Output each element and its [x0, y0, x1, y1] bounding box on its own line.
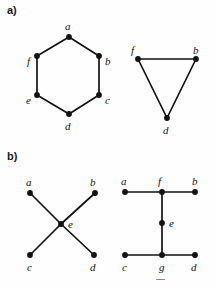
stray-marks-layer: [156, 279, 165, 280]
graph-vertex-star-b: [92, 190, 98, 196]
vertex-label-hexagon-a: a: [65, 21, 71, 32]
vertex-label-hexagon-e: e: [26, 95, 31, 106]
graph-vertex-tree-f: [159, 189, 165, 195]
graph-edge-star-ae: [30, 193, 61, 224]
graph-vertex-triangle-d: [164, 115, 170, 121]
part-label-b: b): [7, 151, 17, 162]
graph-vertex-hexagon-c: [96, 92, 102, 98]
graph-vertex-triangle-b: [193, 56, 199, 62]
graph-vertex-hexagon-a: [66, 34, 72, 40]
graph-vertex-tree-c: [122, 252, 128, 258]
graph-edge-star-ce: [30, 224, 61, 255]
graph-edge-hexagon-de: [37, 95, 69, 114]
vertex-label-star-a: a: [26, 177, 32, 188]
graph-vertex-star-d: [91, 252, 97, 258]
graph-vertex-tree-a: [122, 189, 128, 195]
graph-vertex-star-c: [27, 252, 33, 258]
graph-vertex-star-a: [27, 190, 33, 196]
graph-vertex-tree-g: [159, 252, 165, 258]
vertex-label-star-c: c: [27, 262, 32, 273]
graph-vertex-tree-b: [192, 189, 198, 195]
vertex-label-star-b: b: [90, 177, 96, 188]
graph-vertex-hexagon-d: [66, 111, 72, 117]
vertex-label-triangle-b: b: [193, 45, 199, 56]
graph-vertex-hexagon-b: [96, 53, 102, 59]
vertex-label-hexagon-f: f: [27, 56, 30, 67]
vertex-label-hexagon-c: c: [105, 95, 110, 106]
graph-edge-star-be: [61, 193, 95, 224]
graph-edge-hexagon-cd: [69, 95, 99, 114]
vertex-label-tree-d: d: [191, 262, 197, 273]
vertex-label-triangle-d: d: [163, 125, 169, 136]
vertex-label-tree-g: g: [159, 262, 165, 273]
graph-vertex-hexagon-e: [34, 92, 40, 98]
graph-edge-hexagon-fa: [37, 37, 69, 56]
vertex-label-hexagon-d: d: [65, 121, 71, 132]
vertex-label-hexagon-b: b: [105, 56, 111, 67]
graph-vertex-hexagon-f: [34, 53, 40, 59]
stray-mark: [156, 279, 165, 280]
graph-figure-canvas: [0, 0, 217, 288]
vertex-label-tree-b: b: [192, 176, 198, 187]
graph-vertex-tree-d: [192, 252, 198, 258]
vertex-label-star-e: e: [68, 219, 73, 230]
vertex-label-triangle-f: f: [131, 45, 134, 56]
graph-edge-hexagon-ab: [69, 37, 99, 56]
vertex-label-tree-f: f: [158, 176, 161, 187]
graph-vertex-star-e: [58, 221, 64, 227]
graph-edge-triangle-df: [138, 59, 167, 118]
vertex-label-tree-e: e: [169, 218, 174, 229]
vertex-label-star-d: d: [90, 262, 96, 273]
figure-page: a) b) abcdeffbdabecdafbecgd: [0, 0, 217, 288]
graph-edge-triangle-bd: [167, 59, 196, 118]
graph-edge-star-de: [61, 224, 94, 255]
graph-vertex-triangle-f: [135, 56, 141, 62]
vertex-label-tree-a: a: [121, 176, 127, 187]
part-label-a: a): [7, 5, 17, 16]
graph-vertex-tree-e: [159, 220, 165, 226]
vertex-label-tree-c: c: [122, 262, 127, 273]
